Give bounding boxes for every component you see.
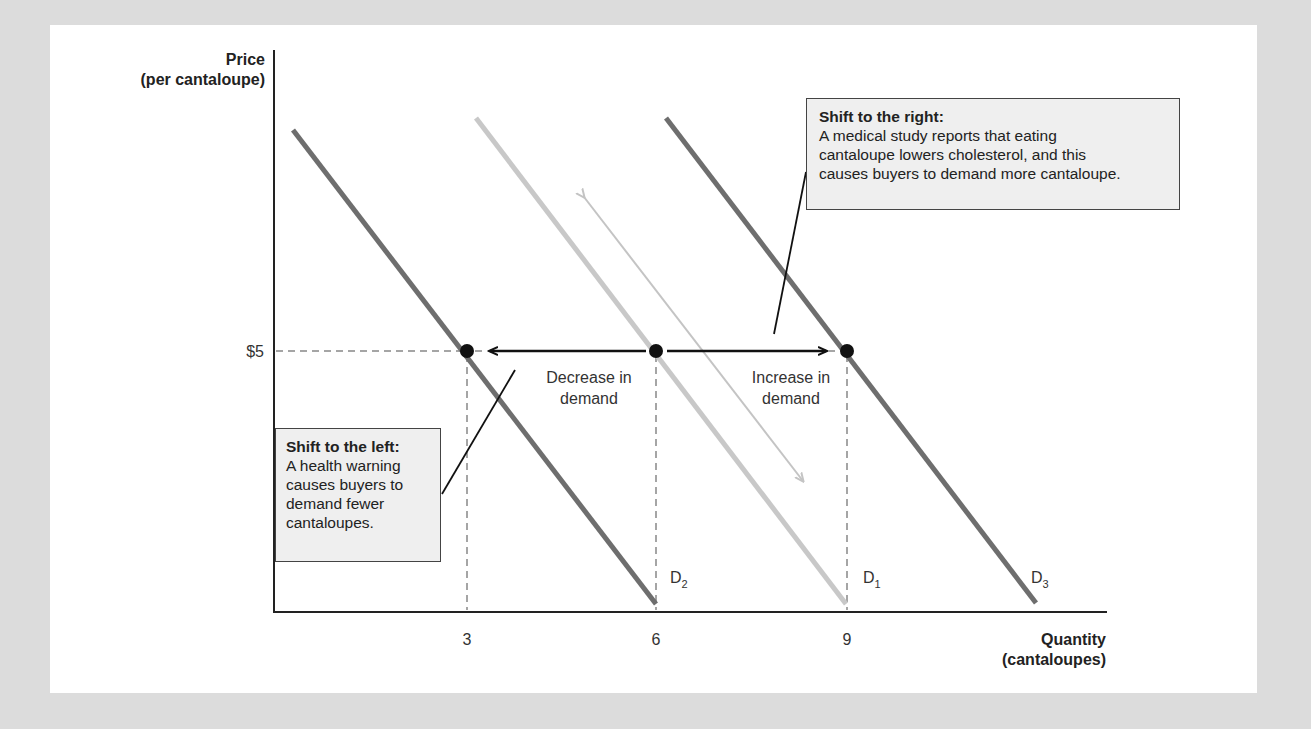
- shift-right-callout: Shift to the right: A medical study repo…: [806, 98, 1180, 210]
- point-d2-q3: [460, 344, 474, 358]
- right-callout-pointer: [774, 172, 806, 334]
- shift-left-callout: Shift to the left: A health warning caus…: [275, 428, 441, 562]
- y-axis-label-line2: (per cantaloupe): [141, 71, 265, 88]
- increase-label-line1: Increase in: [752, 369, 830, 386]
- movement-along-curve-arrow: [584, 197, 803, 481]
- shift-right-body: A medical study reports that eating cant…: [819, 126, 1169, 183]
- shift-left-body: A health warning causes buyers to demand…: [286, 456, 430, 532]
- increase-label-line2: demand: [762, 390, 820, 407]
- x-tick-3: 3: [463, 631, 472, 648]
- left-callout-pointer: [442, 370, 515, 494]
- y-axis-label-line1: Price: [226, 51, 265, 68]
- curve-label-d1: D1: [863, 569, 881, 590]
- curve-label-d3: D3: [1031, 569, 1049, 590]
- x-tick-9: 9: [843, 631, 852, 648]
- point-d3-q9: [840, 344, 854, 358]
- point-d1-q6: [649, 344, 663, 358]
- curve-label-d2: D2: [670, 569, 688, 590]
- x-tick-6: 6: [652, 631, 661, 648]
- shift-left-title: Shift to the left:: [286, 437, 430, 456]
- x-axis-label-line1: Quantity: [1041, 631, 1106, 648]
- y-tick-5: $5: [246, 343, 264, 360]
- shift-right-title: Shift to the right:: [819, 107, 1169, 126]
- x-axis-label-line2: (cantaloupes): [1002, 651, 1106, 668]
- decrease-label-line2: demand: [560, 390, 618, 407]
- decrease-label-line1: Decrease in: [546, 369, 631, 386]
- demand-curve-d1: [476, 118, 846, 604]
